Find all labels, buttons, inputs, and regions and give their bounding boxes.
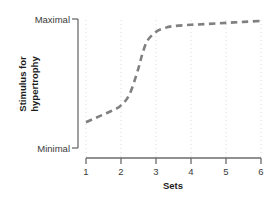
chart-figure: Maximal Minimal 1 2 3 4 5 6 Sets Stimulu… — [0, 0, 277, 200]
x-tick-label-4: 4 — [188, 166, 193, 177]
y-axis-title: Stimulus for hypertrophy — [17, 56, 40, 112]
y-tick-label-minimal: Minimal — [37, 143, 70, 154]
gridlines — [86, 20, 261, 157]
y-axis-title-line1: Stimulus for — [17, 56, 28, 112]
y-axis — [72, 19, 78, 148]
x-tick-label-6: 6 — [258, 166, 263, 177]
x-tick-label-2: 2 — [118, 166, 123, 177]
x-axis — [86, 158, 261, 164]
x-tick-label-1: 1 — [83, 166, 88, 177]
y-tick-label-maximal: Maximal — [35, 14, 70, 25]
x-tick-label-5: 5 — [223, 166, 228, 177]
hypertrophy-sets-chart: Maximal Minimal 1 2 3 4 5 6 Sets Stimulu… — [0, 0, 277, 200]
x-axis-title: Sets — [163, 180, 183, 191]
y-axis-title-line2: hypertrophy — [29, 56, 40, 112]
stimulus-curve — [86, 21, 261, 122]
x-tick-label-3: 3 — [153, 166, 158, 177]
